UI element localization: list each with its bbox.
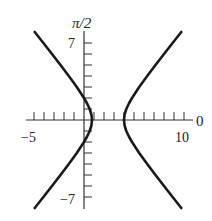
polar-hyperbola-chart: π/2 0 7 −7 −5 10	[0, 0, 212, 221]
x-tick-label-right: 10	[175, 130, 189, 145]
polar-axis-label: 0	[196, 113, 204, 129]
vertical-axis-label: π/2	[72, 15, 92, 31]
y-tick-label-top: 7	[68, 36, 75, 51]
axes	[26, 31, 193, 209]
y-tick-label-bottom: −7	[60, 192, 75, 207]
x-tick-label-left: −5	[21, 130, 36, 145]
